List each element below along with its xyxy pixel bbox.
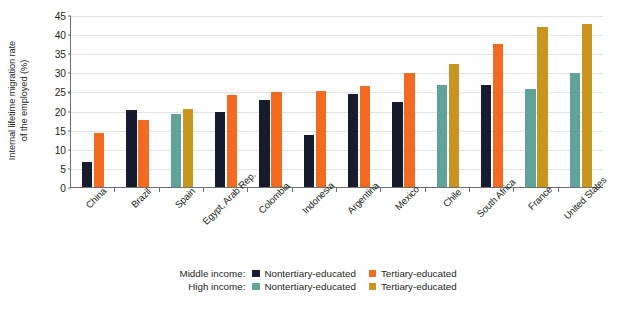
legend-row-label: High income: <box>161 281 252 292</box>
legend-swatch-icon <box>252 283 260 291</box>
bar <box>259 100 270 188</box>
bar <box>360 86 371 188</box>
legend-swatch-icon <box>369 283 377 291</box>
y-axis-title-line1: Internal lifetime migration rate <box>8 40 18 159</box>
legend-item[interactable]: Tertiary-educated <box>369 268 457 279</box>
y-axis-tick-label: 45 <box>55 11 71 22</box>
y-axis-tick-label: 5 <box>60 163 71 174</box>
bar <box>215 112 226 188</box>
x-axis-label: Egypt, Arab Rep. <box>203 192 247 254</box>
legend-row: High income:Nontertiary-educatedTertiary… <box>161 281 456 292</box>
x-axis-label: South Africa <box>470 192 514 254</box>
legend-item-label: Tertiary-educated <box>381 281 457 292</box>
bar <box>449 64 460 188</box>
x-axis-labels: ChinaBrazilSpainEgypt, Arab Rep.Colombia… <box>70 192 603 254</box>
legend-row-label: Middle income: <box>161 268 252 279</box>
legend-item[interactable]: Nontertiary-educated <box>252 281 356 292</box>
bar <box>126 110 137 188</box>
legend-item-label: Nontertiary-educated <box>264 281 356 292</box>
chart-figure: Internal lifetime migration rate of the … <box>0 0 618 322</box>
bar-groups <box>71 16 603 188</box>
x-axis-label: Argentina <box>337 192 381 254</box>
y-axis-tick-label: 15 <box>55 125 71 136</box>
bar <box>82 162 93 188</box>
legend-swatch-icon <box>369 270 377 278</box>
bar-group <box>115 16 159 188</box>
bar-group <box>71 16 115 188</box>
x-axis-line <box>71 187 603 188</box>
footer-text-sliver <box>112 315 608 322</box>
x-axis-label-text: Spain <box>173 186 198 211</box>
y-axis-tick-label: 25 <box>55 87 71 98</box>
bar-group <box>160 16 204 188</box>
y-axis-title: Internal lifetime migration rate of the … <box>2 0 36 200</box>
bar-group <box>426 16 470 188</box>
x-axis-label: Mexico <box>381 192 425 254</box>
bar <box>171 114 182 188</box>
bar-group <box>337 16 381 188</box>
x-axis-label: Indonesia <box>292 192 336 254</box>
bar-group <box>381 16 425 188</box>
bar <box>138 120 149 188</box>
bar <box>227 95 238 188</box>
bar <box>392 102 403 188</box>
bar <box>316 91 327 188</box>
bar <box>481 85 492 188</box>
bar <box>304 135 315 188</box>
x-axis-label: Brazil <box>114 192 158 254</box>
bar-group <box>514 16 558 188</box>
bar <box>94 133 105 188</box>
x-axis-label-text: China <box>84 185 109 210</box>
x-axis-label: United States <box>559 192 603 254</box>
bar <box>525 89 536 188</box>
bar <box>404 73 415 188</box>
legend-item[interactable]: Nontertiary-educated <box>252 268 356 279</box>
bar <box>537 27 548 188</box>
legend-item-label: Nontertiary-educated <box>264 268 356 279</box>
chart-legend: Middle income:Nontertiary-educatedTertia… <box>0 268 618 292</box>
bar-group <box>293 16 337 188</box>
x-axis-label: China <box>70 192 114 254</box>
plot-area: 454035302520151050 <box>70 16 603 188</box>
x-axis-label: Colombia <box>248 192 292 254</box>
bar <box>183 109 194 189</box>
x-axis-label: Spain <box>159 192 203 254</box>
y-axis-tick-label: 10 <box>55 144 71 155</box>
bar-group <box>204 16 248 188</box>
x-axis-label: France <box>514 192 558 254</box>
bar-group <box>248 16 292 188</box>
bar <box>348 94 359 188</box>
y-axis-title-line2: of the employed (%) <box>19 40 31 159</box>
x-axis-label-text: Chile <box>440 187 463 210</box>
bar-group <box>559 16 603 188</box>
y-axis-tick-label: 20 <box>55 106 71 117</box>
bar <box>493 44 504 188</box>
bar-group <box>470 16 514 188</box>
legend-swatch-icon <box>252 270 260 278</box>
bar <box>570 73 581 188</box>
y-axis-tick-label: 35 <box>55 49 71 60</box>
legend-item-label: Tertiary-educated <box>381 268 457 279</box>
bar <box>582 24 593 188</box>
bar <box>271 92 282 188</box>
bar <box>437 85 448 188</box>
legend-item[interactable]: Tertiary-educated <box>369 281 457 292</box>
y-axis-tick-label: 30 <box>55 68 71 79</box>
x-axis-label-text: Brazil <box>128 186 152 210</box>
y-axis-tick-label: 40 <box>55 30 71 41</box>
legend-row: Middle income:Nontertiary-educatedTertia… <box>161 268 456 279</box>
x-axis-label: Chile <box>425 192 469 254</box>
